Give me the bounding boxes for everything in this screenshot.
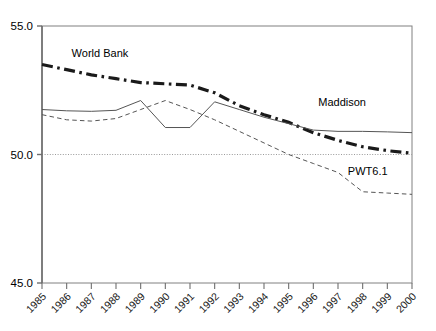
series-label-pwt6-1: PWT6.1 <box>348 165 388 177</box>
x-tick-label: 2000 <box>393 290 418 315</box>
y-tick-label: 45.0 <box>11 277 33 289</box>
x-tick-label: 1989 <box>122 290 147 315</box>
x-tick-label: 1988 <box>97 290 122 315</box>
x-tick-label: 1990 <box>147 290 172 315</box>
series-line-world-bank <box>42 65 412 154</box>
y-tick-label: 55.0 <box>11 20 33 32</box>
x-tick-label: 1993 <box>221 290 246 315</box>
x-tick-label: 1985 <box>23 290 48 315</box>
x-tick-label: 1987 <box>73 290 98 315</box>
chart-container: 55.050.045.01985198619871988198919901991… <box>0 0 436 331</box>
x-tick-label: 1992 <box>196 290 221 315</box>
series-label-world-bank: World Bank <box>72 47 129 59</box>
series-label-maddison: Maddison <box>318 96 366 108</box>
x-tick-label: 1994 <box>245 290 270 315</box>
x-tick-label: 1997 <box>319 290 344 315</box>
series-line-pwt6-1 <box>42 101 412 195</box>
x-tick-label: 1986 <box>48 290 73 315</box>
x-tick-label: 1998 <box>344 290 369 315</box>
x-tick-label: 1991 <box>171 290 196 315</box>
y-tick-label: 50.0 <box>11 149 33 161</box>
line-chart: 55.050.045.01985198619871988198919901991… <box>0 0 436 331</box>
x-tick-label: 1995 <box>270 290 295 315</box>
x-tick-label: 1996 <box>295 290 320 315</box>
x-tick-label: 1999 <box>369 290 394 315</box>
